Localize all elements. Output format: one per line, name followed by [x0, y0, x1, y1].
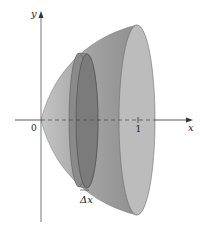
solid-of-revolution-diagram: y x 0 1 Δx [0, 0, 205, 234]
y-axis-label: y [30, 8, 37, 19]
slice-thickness-label: Δx [79, 194, 93, 205]
y-axis-arrow-icon [39, 11, 44, 18]
disk-slice-right-face [76, 54, 98, 188]
origin-label: 0 [31, 123, 37, 133]
x-axis-label: x [188, 122, 194, 133]
x-tick-label-1: 1 [136, 124, 142, 134]
